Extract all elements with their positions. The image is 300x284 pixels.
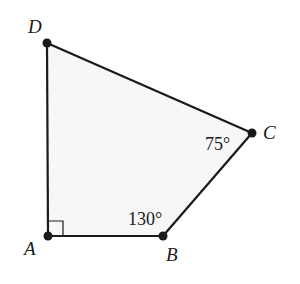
angle-label-b: 130° xyxy=(128,209,162,229)
vertex-dot-b xyxy=(159,232,168,241)
vertex-dot-a xyxy=(44,232,53,241)
vertex-dot-d xyxy=(43,39,52,48)
angle-label-c: 75° xyxy=(205,134,230,154)
side-da xyxy=(47,43,48,236)
vertex-label-a: A xyxy=(22,238,36,259)
vertex-label-c: C xyxy=(263,122,276,143)
vertex-label-d: D xyxy=(27,16,42,37)
quadrilateral-diagram: D C A B 75° 130° xyxy=(0,0,300,284)
vertex-dot-c xyxy=(248,129,257,138)
vertex-label-b: B xyxy=(166,244,178,265)
geometry-figure: D C A B 75° 130° xyxy=(0,0,300,284)
